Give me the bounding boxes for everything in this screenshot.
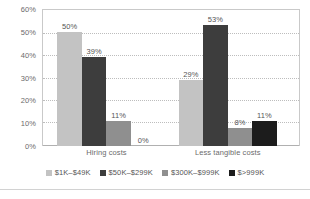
- legend-item-label: $>999K: [238, 168, 265, 177]
- bar-group: 29% 53% 8% 11%: [179, 9, 277, 146]
- bar-value-label: 53%: [208, 15, 223, 24]
- bar-slot: 11%: [252, 9, 277, 146]
- bar[interactable]: [228, 128, 253, 146]
- legend-item[interactable]: $50K–$299K: [100, 168, 153, 177]
- legend-swatch-icon: [229, 170, 235, 176]
- bar[interactable]: [179, 80, 204, 146]
- bar-slot: 8%: [228, 9, 253, 146]
- bar[interactable]: [203, 25, 228, 146]
- bars-layer: 50% 39% 11% 0% 29% 53%: [42, 9, 300, 146]
- legend-swatch-icon: [162, 170, 168, 176]
- chart-legend: $1K–$49K $50K–$299K $300K–$999K $>999K: [0, 168, 310, 177]
- bar-slot: 0%: [131, 9, 156, 146]
- bar-chart-figure: 60% 50% 40% 30% 20% 10% 0% 50% 39%: [0, 0, 310, 199]
- bar-slot: 11%: [106, 9, 131, 146]
- y-axis-tick: 10%: [21, 119, 36, 128]
- x-axis: Hiring costs Less tangible costs: [42, 148, 300, 162]
- y-axis-tick: 0%: [25, 142, 36, 151]
- bar-slot: 29%: [179, 9, 204, 146]
- y-axis-tick: 60%: [21, 5, 36, 14]
- legend-item-label: $50K–$299K: [109, 168, 153, 177]
- legend-item[interactable]: $1K–$49K: [46, 168, 91, 177]
- bar-slot: 53%: [203, 9, 228, 146]
- y-axis-tick: 30%: [21, 73, 36, 82]
- bar-value-label: 8%: [234, 118, 245, 127]
- legend-item-label: $300K–$999K: [171, 168, 220, 177]
- x-axis-category-label: Less tangible costs: [195, 148, 261, 157]
- bar-value-label: 39%: [87, 47, 102, 56]
- bar[interactable]: [252, 121, 277, 146]
- bar-value-label: 29%: [183, 70, 198, 79]
- bar-slot: 50%: [57, 9, 82, 146]
- bar-value-label: 11%: [111, 111, 126, 120]
- bar-value-label: 50%: [62, 22, 77, 31]
- bar-value-label: 0%: [138, 136, 149, 145]
- legend-swatch-icon: [46, 170, 52, 176]
- bar[interactable]: [57, 32, 82, 146]
- bar-group: 50% 39% 11% 0%: [57, 9, 155, 146]
- y-axis: 60% 50% 40% 30% 20% 10% 0%: [0, 9, 40, 146]
- legend-swatch-icon: [100, 170, 106, 176]
- bar[interactable]: [82, 57, 107, 146]
- y-axis-tick: 40%: [21, 50, 36, 59]
- bar-value-label: 11%: [257, 111, 272, 120]
- bar-slot: 39%: [82, 9, 107, 146]
- bar[interactable]: [106, 121, 131, 146]
- y-axis-tick: 20%: [21, 96, 36, 105]
- x-axis-category-label: Hiring costs: [86, 148, 126, 157]
- legend-item[interactable]: $300K–$999K: [162, 168, 220, 177]
- legend-item-label: $1K–$49K: [55, 168, 91, 177]
- bottom-divider: [0, 189, 310, 190]
- y-axis-tick: 50%: [21, 27, 36, 36]
- legend-item[interactable]: $>999K: [229, 168, 265, 177]
